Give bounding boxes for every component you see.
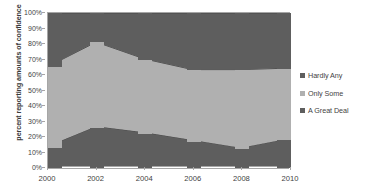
- x-tick-label: 2008: [233, 174, 250, 183]
- chart-container: percent reporting amounts of confidence …: [0, 0, 371, 196]
- y-tick-mark: [42, 121, 45, 122]
- y-tick-mark: [42, 90, 45, 91]
- x-tick-mark: [144, 167, 145, 170]
- legend-item: Only Some: [300, 89, 370, 98]
- column-segment-hardly-any: [277, 13, 291, 69]
- column-segment-a-great-deal: [138, 134, 152, 168]
- column-segment-only-some: [90, 42, 104, 127]
- y-tick-mark: [42, 28, 45, 29]
- y-tick-label: 80%: [28, 40, 42, 47]
- y-tick-label: 70%: [28, 55, 42, 62]
- column-segment-only-some: [48, 67, 62, 148]
- x-tick-mark: [96, 167, 97, 170]
- legend-label: Hardly Any: [308, 71, 342, 80]
- y-tick-label: 50%: [28, 86, 42, 93]
- y-tick-mark: [42, 167, 45, 168]
- y-tick-mark: [42, 12, 45, 13]
- column-segment-a-great-deal: [277, 140, 291, 168]
- column-segment-hardly-any: [187, 13, 201, 70]
- x-tick-label: 2004: [136, 174, 153, 183]
- y-tick-mark: [42, 152, 45, 153]
- y-tick-mark: [42, 136, 45, 137]
- x-tick-label: 2010: [282, 174, 299, 183]
- column-segment-a-great-deal: [48, 148, 62, 168]
- column-segment-only-some: [187, 70, 201, 141]
- legend-label: A Great Deal: [308, 106, 349, 115]
- column-segment-only-some: [235, 70, 249, 149]
- stacked-area-series: [48, 13, 289, 166]
- legend-item: A Great Deal: [300, 106, 370, 115]
- x-tick-mark: [193, 167, 194, 170]
- x-axis-tick-labels: 200020022004200620082010: [47, 170, 290, 186]
- column-segment-a-great-deal: [187, 142, 201, 168]
- y-tick-label: 0%: [32, 164, 42, 171]
- column-segment-hardly-any: [138, 13, 152, 60]
- x-tick-mark: [290, 167, 291, 170]
- legend-swatch-icon: [300, 108, 305, 113]
- y-tick-mark: [42, 59, 45, 60]
- y-tick-mark: [42, 105, 45, 106]
- y-tick-label: 20%: [28, 133, 42, 140]
- y-tick-mark: [42, 74, 45, 75]
- x-tick-mark: [47, 167, 48, 170]
- x-tick-label: 2002: [87, 174, 104, 183]
- column-segment-a-great-deal: [90, 128, 104, 168]
- column-segment-hardly-any: [90, 13, 104, 42]
- y-tick-label: 30%: [28, 117, 42, 124]
- area-series-svg: [48, 13, 289, 166]
- column-segment-only-some: [138, 60, 152, 134]
- y-tick-mark: [42, 43, 45, 44]
- column-segment-hardly-any: [235, 13, 249, 70]
- legend-swatch-icon: [300, 91, 305, 96]
- y-tick-label: 90%: [28, 24, 42, 31]
- column-segment-hardly-any: [48, 13, 62, 67]
- y-tick-label: 40%: [28, 102, 42, 109]
- x-tick-mark: [241, 167, 242, 170]
- y-tick-label: 100%: [24, 9, 42, 16]
- plot-area: [47, 12, 290, 167]
- chart-legend: Hardly AnyOnly SomeA Great Deal: [300, 71, 370, 124]
- y-tick-label: 60%: [28, 71, 42, 78]
- column-segment-a-great-deal: [235, 149, 249, 168]
- legend-swatch-icon: [300, 73, 305, 78]
- y-axis-tick-labels: 0%10%20%30%40%50%60%70%80%90%100%: [13, 12, 45, 167]
- y-tick-label: 10%: [28, 148, 42, 155]
- x-tick-label: 2006: [184, 174, 201, 183]
- x-tick-label: 2000: [39, 174, 56, 183]
- legend-item: Hardly Any: [300, 71, 370, 80]
- gridline: [48, 168, 289, 169]
- column-segment-only-some: [277, 69, 291, 140]
- legend-label: Only Some: [308, 89, 343, 98]
